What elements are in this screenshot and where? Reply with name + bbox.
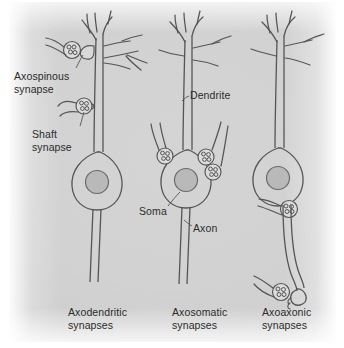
figure-container: .ink{fill:none;stroke:#555555;stroke-wid…	[0, 0, 344, 348]
axosomatic-bouton-right-upper	[198, 149, 214, 165]
leader-axon	[184, 220, 192, 226]
callout-leader-lines	[76, 55, 192, 226]
axospinous-synapse	[46, 38, 94, 59]
callout-axon: Axon	[193, 222, 217, 235]
callout-soma: Soma	[139, 205, 167, 218]
leader-soma	[168, 192, 180, 206]
callout-dendrite: Dendrite	[190, 89, 231, 102]
panel-caption-axoaxonic: Axoaxonic synapses	[262, 306, 311, 331]
neuron-diagram-artwork: .ink{fill:none;stroke:#555555;stroke-wid…	[0, 0, 344, 348]
neuron-axosomatic	[151, 11, 231, 284]
axoaxonic-synapse-terminal	[254, 276, 290, 301]
axosomatic-bouton-left	[151, 123, 173, 164]
axosomatic-bouton-right-lower	[205, 164, 221, 180]
panel-caption-axosomatic: Axosomatic synapses	[172, 306, 227, 331]
callout-shaft-synapse: Shaft synapse	[32, 128, 72, 153]
panel-caption-axodendritic: Axodendritic synapses	[68, 306, 127, 331]
shaft-synapse	[58, 98, 94, 116]
neuron-axoaxonic	[251, 11, 324, 309]
callout-axospinous-synapse: Axospinous synapse	[14, 70, 69, 95]
